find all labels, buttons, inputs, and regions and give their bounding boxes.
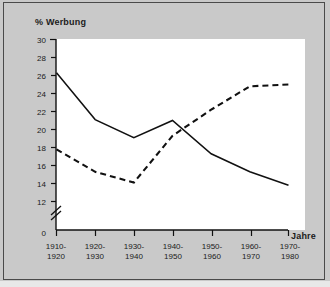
chart-page: % Werbung Jahre 30 28 26 24 22 20 18 16 … [0,0,330,287]
plot-background [56,39,305,230]
chart-plot [0,0,330,287]
